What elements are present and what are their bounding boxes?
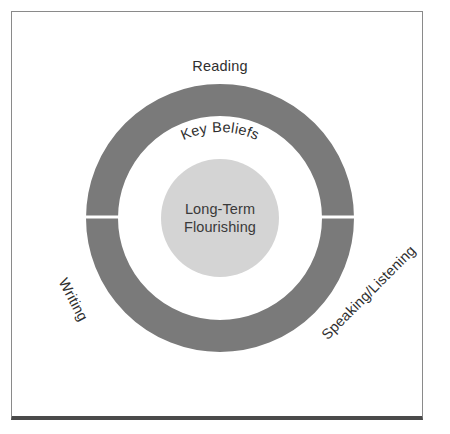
circle-diagram: KNOWLEDGE ARGUMENT Key Beliefs Long-Term… [0, 0, 450, 434]
diagram-page: KNOWLEDGE ARGUMENT Key Beliefs Long-Term… [0, 0, 450, 434]
middle-ring-label: Key Beliefs [178, 119, 262, 143]
ring-gap-right [318, 216, 358, 219]
diagram-svg: KNOWLEDGE ARGUMENT Key Beliefs Long-Term… [0, 0, 450, 434]
core-label-line1: Long-Term [185, 201, 255, 217]
outer-label-writing: Writing [55, 275, 91, 323]
core-circle [161, 159, 279, 277]
ring-gap-left [82, 216, 122, 219]
ring-label-argument: ARGUMENT [355, 162, 384, 274]
outer-label-reading: Reading [192, 58, 247, 74]
core-label-line2: Flourishing [184, 219, 256, 235]
